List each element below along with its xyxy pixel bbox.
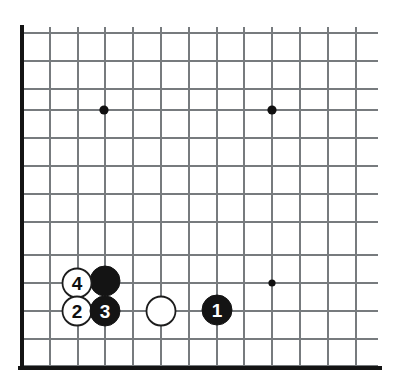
stone-disc [147, 297, 176, 326]
stone-move-number: 2 [72, 301, 83, 322]
stone-disc [90, 266, 120, 296]
star-point-upper-left [99, 105, 108, 114]
stone-black-1: 1 [202, 295, 232, 325]
stone-white-unnumbered [147, 297, 176, 326]
stone-black-3: 3 [90, 296, 120, 326]
star-point-lower-right [268, 279, 275, 286]
stones-group: 4231 [63, 266, 233, 326]
star-points-group [99, 105, 276, 286]
go-board-canvas: 4231 [0, 0, 398, 390]
stone-move-number: 4 [72, 273, 83, 294]
stone-move-number: 3 [100, 301, 111, 322]
stone-white-4: 4 [63, 269, 92, 298]
stone-white-2: 2 [63, 297, 92, 326]
stone-black-unnumbered [90, 266, 120, 296]
star-point-upper-right [267, 105, 276, 114]
go-board-diagram: 4231 [0, 0, 398, 390]
stone-move-number: 1 [212, 300, 223, 321]
